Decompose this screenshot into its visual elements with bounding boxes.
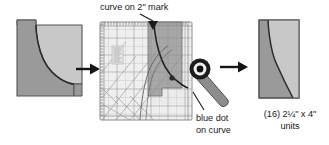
- caption-units: (16) 2¼" x 4" units: [258, 108, 322, 132]
- caption-blue-dot-line1: blue dot: [196, 112, 231, 124]
- caption-blue-dot: blue dot on curve: [196, 112, 231, 136]
- caption-units-line1: (16) 2¼" x 4": [258, 108, 322, 120]
- caption-units-line2: units: [258, 120, 322, 132]
- diagram-canvas: curve on 2" mark blue dot on curve (16) …: [0, 0, 329, 145]
- caption-blue-dot-line2: on curve: [196, 124, 231, 136]
- leader-curve-mark: [140, 14, 153, 21]
- caption-curve-on-mark: curve on 2" mark: [100, 2, 168, 14]
- leader-blue-dot: [193, 92, 204, 110]
